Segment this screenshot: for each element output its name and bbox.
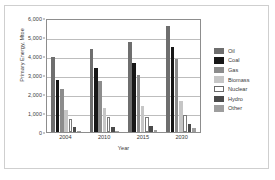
y-tick-mark [43, 133, 45, 134]
bar-groups [47, 20, 200, 132]
x-tick-label: 2004 [46, 134, 85, 140]
bar-coal-2010 [94, 68, 98, 132]
bar-group [162, 20, 200, 132]
y-tick-mark [43, 19, 45, 20]
legend-item-other: Other [214, 104, 249, 114]
bar-oil-2015 [128, 42, 132, 132]
legend: OilCoalGasBiomassNuclearHydroOther [214, 46, 249, 113]
legend-item-hydro: Hydro [214, 94, 249, 104]
legend-item-gas: Gas [214, 65, 249, 75]
bar-hydro-2015 [149, 126, 153, 132]
x-axis-title: Year [46, 145, 201, 151]
legend-swatch-gas [214, 67, 224, 73]
y-tick-mark [43, 38, 45, 39]
bar-coal-2004 [56, 80, 60, 132]
bar-nuclear-2004 [69, 119, 73, 132]
bar-gas-2030 [175, 59, 179, 132]
y-tick-mark [43, 114, 45, 115]
legend-label-other: Other [228, 105, 242, 111]
legend-swatch-coal [214, 57, 224, 63]
x-tick-label: 2015 [124, 134, 163, 140]
legend-label-nuclear: Nuclear [228, 86, 247, 92]
bar-biomass-2030 [179, 101, 183, 132]
y-tick-label: 3,000 [28, 73, 42, 79]
legend-swatch-biomass [214, 76, 224, 82]
legend-item-coal: Coal [214, 56, 249, 66]
legend-swatch-hydro [214, 96, 224, 102]
legend-label-gas: Gas [228, 67, 238, 73]
bar-oil-2004 [51, 57, 55, 132]
bar-group-bars [85, 20, 123, 132]
y-tick-label: 1,000 [28, 111, 42, 117]
bar-group [47, 20, 85, 132]
bar-biomass-2010 [103, 108, 107, 132]
figure-container: Primary Energy, Mtoe 01,0002,0003,0004,0… [4, 5, 269, 169]
legend-label-biomass: Biomass [228, 77, 249, 83]
x-axis-ticks: 2004201020152030 [46, 134, 201, 140]
bar-nuclear-2010 [107, 117, 111, 132]
bar-group [85, 20, 123, 132]
legend-item-biomass: Biomass [214, 75, 249, 85]
bar-other-2010 [115, 131, 119, 132]
x-tick-label: 2010 [85, 134, 124, 140]
bar-group [124, 20, 162, 132]
x-tick-label: 2030 [162, 134, 201, 140]
y-tick-mark [43, 76, 45, 77]
bar-biomass-2015 [141, 106, 145, 132]
bar-nuclear-2030 [183, 115, 187, 132]
bar-oil-2030 [166, 26, 170, 132]
y-tick-label: 5,000 [28, 35, 42, 41]
legend-swatch-nuclear [214, 86, 224, 92]
legend-swatch-other [214, 105, 224, 111]
bar-coal-2015 [132, 63, 136, 132]
legend-label-oil: Oil [228, 48, 235, 54]
y-tick-label: 2,000 [28, 92, 42, 98]
bar-gas-2004 [60, 89, 64, 132]
legend-label-coal: Coal [228, 57, 240, 63]
bar-other-2030 [192, 128, 196, 132]
y-tick-label: 6,000 [28, 16, 42, 22]
y-tick-label: 0 [39, 130, 42, 136]
legend-item-nuclear: Nuclear [214, 84, 249, 94]
bar-hydro-2010 [111, 127, 115, 132]
bar-other-2015 [154, 130, 158, 132]
plot-area [46, 19, 201, 133]
bar-group-bars [47, 20, 85, 132]
bar-oil-2010 [90, 49, 94, 132]
y-tick-mark [43, 95, 45, 96]
bar-hydro-2004 [73, 127, 77, 132]
legend-item-oil: Oil [214, 46, 249, 56]
bar-coal-2030 [171, 47, 175, 132]
bar-gas-2015 [137, 75, 141, 132]
bar-group-bars [162, 20, 200, 132]
bar-other-2004 [77, 131, 81, 132]
bar-group-bars [124, 20, 162, 132]
y-axis-ticks: 01,0002,0003,0004,0005,0006,000 [5, 19, 45, 133]
bar-hydro-2030 [188, 124, 192, 132]
bar-nuclear-2015 [145, 117, 149, 132]
bar-biomass-2004 [64, 110, 68, 132]
y-tick-mark [43, 57, 45, 58]
legend-swatch-oil [214, 48, 224, 54]
bar-gas-2010 [98, 81, 102, 132]
legend-label-hydro: Hydro [228, 96, 243, 102]
y-tick-label: 4,000 [28, 54, 42, 60]
